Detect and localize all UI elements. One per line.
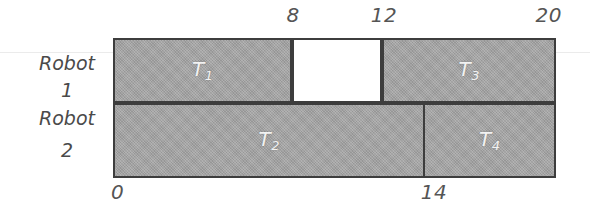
task-block-t2[interactable]: T2 <box>113 103 425 178</box>
row-label-robot-1-line1: Robot <box>39 52 95 74</box>
gantt-plot-area: T1 T3 T2 T4 <box>113 38 556 178</box>
task-label-t2: T2 <box>259 129 280 152</box>
bottom-tick-label-0: 0 <box>111 180 124 204</box>
idle-block-robot-1 <box>292 38 382 103</box>
top-tick-label-8: 8 <box>286 3 299 27</box>
row-label-robot-2-line1: Robot <box>39 107 95 129</box>
task-label-t3: T3 <box>459 59 480 82</box>
row-label-robot-1-line2: 1 <box>61 79 73 101</box>
row-label-robot-2-line2: 2 <box>61 139 73 161</box>
top-tick-label-12: 12 <box>371 3 397 27</box>
top-tick-label-20: 20 <box>536 3 562 27</box>
bottom-tick-label-14: 14 <box>421 180 447 204</box>
task-block-t4[interactable]: T4 <box>423 103 556 178</box>
task-block-t1[interactable]: T1 <box>113 38 292 103</box>
task-label-t4: T4 <box>479 129 500 152</box>
task-label-t1: T1 <box>192 59 213 82</box>
gantt-chart-figure: 8 12 20 Robot 1 Robot 2 T1 T3 T2 T4 0 14 <box>0 0 590 213</box>
task-block-t3[interactable]: T3 <box>382 38 556 103</box>
